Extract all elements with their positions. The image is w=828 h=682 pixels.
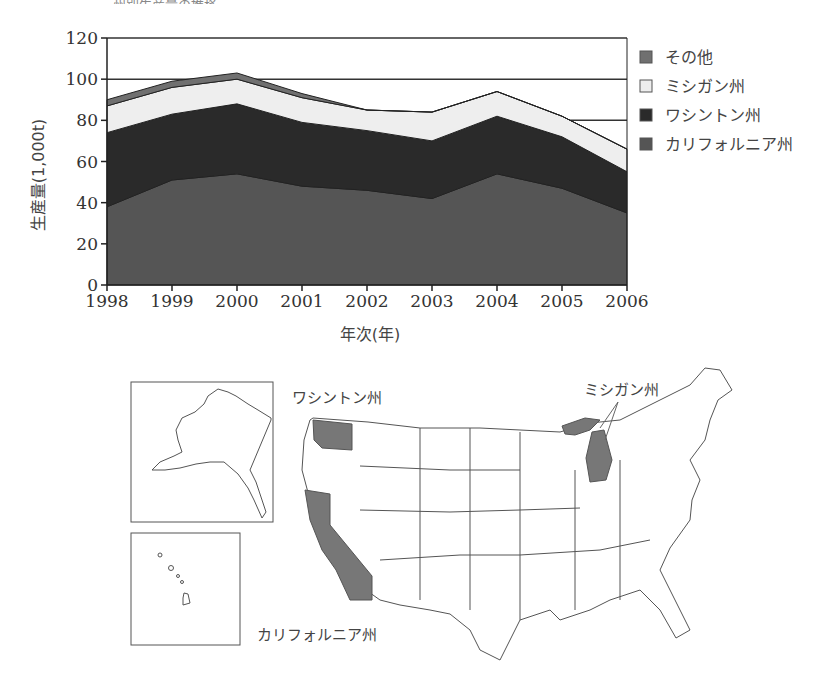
legend-swatch — [640, 80, 652, 92]
x-tick-label: 2002 — [345, 291, 388, 311]
x-axis-title: 年次(年) — [340, 325, 400, 344]
y-tick-label: 40 — [76, 193, 98, 213]
map-label-california: カリフォルニア州 — [257, 626, 377, 644]
legend-label: ワシントン州 — [665, 106, 761, 125]
x-tick-label: 2000 — [215, 291, 258, 311]
y-tick-label: 20 — [76, 234, 98, 254]
production-chart: 0204060801001201998199920002001200220032… — [0, 0, 828, 682]
stacked-areas — [107, 73, 627, 285]
y-tick-label: 80 — [76, 110, 98, 130]
map-label-michigan: ミシガン州 — [584, 381, 659, 399]
legend-swatch — [640, 138, 652, 150]
legend-swatch — [640, 51, 652, 63]
x-tick-label: 2006 — [605, 291, 648, 311]
y-tick-label: 100 — [66, 69, 98, 89]
us-outline — [302, 368, 732, 660]
legend-label: ミシガン州 — [665, 77, 745, 96]
us-map — [131, 368, 732, 660]
hawaii-inset — [131, 533, 240, 645]
legend-label: カリフォルニア州 — [665, 135, 793, 154]
map-label-washington: ワシントン州 — [292, 389, 382, 407]
washington-state — [313, 420, 352, 450]
x-tick-label: 2001 — [280, 291, 323, 311]
legend-swatch — [640, 109, 652, 121]
x-tick-label: 1999 — [150, 291, 193, 311]
x-tick-label: 1998 — [85, 291, 128, 311]
y-tick-label: 60 — [76, 152, 98, 172]
legend-label: その他 — [665, 48, 713, 67]
x-tick-label: 2005 — [540, 291, 583, 311]
x-tick-label: 2003 — [410, 291, 453, 311]
y-tick-label: 120 — [66, 28, 98, 48]
x-tick-label: 2004 — [475, 291, 518, 311]
legend: その他ミシガン州ワシントン州カリフォルニア州 — [640, 48, 793, 154]
y-axis-title: 生産量(1,000t) — [29, 119, 48, 232]
